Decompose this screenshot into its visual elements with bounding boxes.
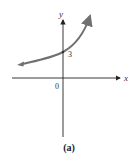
graph: y x 0 3 (0, 0, 138, 162)
curve-left-arrow-icon (17, 62, 24, 67)
y-axis-label: y (58, 9, 63, 19)
y-intercept-point (62, 51, 64, 53)
intercept-label: 3 (68, 50, 72, 59)
figure-caption: (a) (0, 142, 138, 153)
exponential-curve (22, 16, 90, 64)
x-axis-label: x (123, 73, 128, 83)
origin-label: 0 (55, 82, 59, 91)
